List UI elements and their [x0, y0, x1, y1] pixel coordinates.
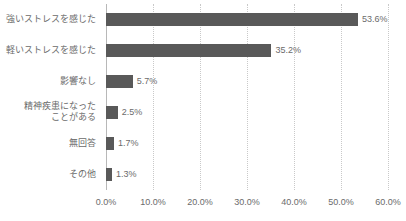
bar-row: 1.7%: [106, 128, 388, 159]
bar-row: 1.3%: [106, 159, 388, 190]
bar-value-label: 2.5%: [122, 105, 143, 119]
bar-row: 35.2%: [106, 35, 388, 66]
category-label-line: 軽いストレスを感じた: [0, 45, 96, 56]
bar-value-label: 53.6%: [362, 12, 388, 26]
bar-value-label: 5.7%: [137, 74, 158, 88]
bar[interactable]: [106, 106, 118, 119]
category-label: 軽いストレスを感じた: [0, 45, 101, 56]
bar[interactable]: [106, 13, 358, 26]
category-label-line: 無回答: [0, 138, 96, 149]
bar-row: 2.5%: [106, 97, 388, 128]
bar-value-label: 1.3%: [116, 167, 137, 181]
category-label-line: その他: [0, 169, 96, 180]
category-label: その他: [0, 169, 101, 180]
bar[interactable]: [106, 137, 114, 150]
category-label-line: 影響なし: [0, 76, 96, 87]
bar-row: 53.6%: [106, 4, 388, 35]
category-label-line: 強いストレスを感じた: [0, 14, 96, 25]
category-label: 影響なし: [0, 76, 101, 87]
x-tick-label: 60.0%: [358, 196, 406, 208]
category-label-line: ことがある: [0, 112, 96, 123]
category-label: 精神疾患になったことがある: [0, 101, 101, 123]
bar[interactable]: [106, 168, 112, 181]
category-label: 無回答: [0, 138, 101, 149]
bar[interactable]: [106, 75, 133, 88]
bar-row: 5.7%: [106, 66, 388, 97]
category-label-line: 精神疾患になった: [0, 101, 96, 112]
gridline-60.0%: [388, 4, 389, 190]
bar-value-label: 35.2%: [275, 43, 301, 57]
plot-area: 53.6%35.2%5.7%2.5%1.7%1.3%: [106, 4, 388, 190]
category-label: 強いストレスを感じた: [0, 14, 101, 25]
bar-value-label: 1.7%: [118, 136, 139, 150]
bar[interactable]: [106, 44, 271, 57]
